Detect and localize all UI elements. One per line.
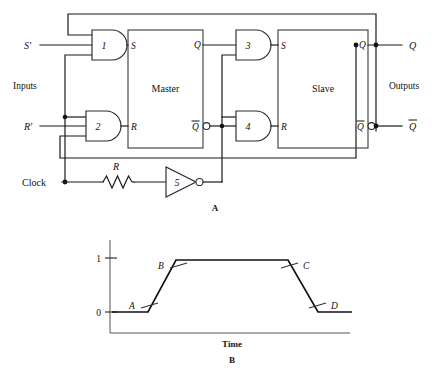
junction-dot-clock-r (63, 115, 68, 120)
waveform-point-d-label: D (330, 301, 338, 311)
slave-block-label: Slave (312, 83, 335, 94)
junction-dot-output-q (374, 43, 379, 48)
clock-label: Clock (22, 177, 46, 188)
outputs-label: Outputs (389, 81, 419, 91)
master-port-qbar-label: Q (192, 122, 199, 132)
waveform-point-b-label: B (158, 261, 164, 271)
waveform-ytick-0-label: 0 (96, 308, 101, 318)
slave-port-q-label: Q (359, 40, 366, 50)
junction-dot-invclock-gate4 (220, 124, 225, 129)
junction-dot-output-qbar (374, 124, 379, 129)
and-gate-1-number: 1 (102, 40, 107, 51)
waveform-xaxis-label: Time (222, 339, 242, 349)
master-port-r-label: R (130, 122, 137, 132)
input-s-label: S' (24, 40, 32, 51)
and-gate-4-number: 4 (246, 121, 251, 132)
slave-port-s-label: S (281, 41, 286, 51)
inverter-output-bubble (196, 178, 203, 185)
and-gate-2: 2 (86, 111, 121, 141)
master-block-label: Master (152, 83, 180, 94)
output-q-label: Q (409, 40, 417, 51)
output-qbar-label: Q (409, 121, 417, 132)
master-port-q-label: Q (194, 40, 201, 50)
and-gate-1: 1 (92, 30, 127, 60)
inverter-gate-5-number: 5 (175, 177, 180, 188)
master-qbar-bubble (203, 123, 210, 130)
inputs-label: Inputs (13, 81, 37, 91)
waveform-ytick-1-label: 1 (96, 254, 101, 264)
resistor-label: R (112, 161, 119, 172)
and-gate-3-number: 3 (245, 40, 251, 51)
waveform-point-a-label: A (128, 301, 135, 311)
input-r-label: R' (23, 121, 33, 132)
master-slave-flipflop-figure: S' R' Inputs 1 2 (0, 0, 437, 372)
slave-port-qbar-label: Q (357, 122, 364, 132)
waveform-point-c-label: C (303, 261, 310, 271)
junction-dot-output-q-feedback (354, 43, 359, 48)
master-port-s-label: S (131, 41, 136, 51)
panel-b-label: B (229, 355, 235, 365)
and-gate-3: 3 (236, 30, 271, 60)
figure-root: S' R' Inputs 1 2 (0, 0, 437, 372)
and-gate-4: 4 (236, 111, 271, 141)
slave-port-r-label: R (280, 122, 287, 132)
and-gate-2-number: 2 (96, 121, 101, 132)
panel-a-label: A (212, 203, 219, 213)
